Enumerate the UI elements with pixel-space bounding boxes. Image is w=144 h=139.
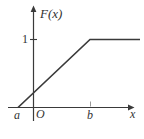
y-axis	[31, 6, 37, 122]
y-axis-label: F(x)	[40, 7, 62, 20]
x-tick-label-b: b	[87, 109, 93, 121]
x-tick-label-a: a	[14, 109, 20, 121]
x-axis-label: x	[130, 108, 135, 120]
cdf-figure: F(x) 1 a O b x	[0, 0, 144, 139]
y-tick-label-one: 1	[22, 33, 28, 45]
origin-label: O	[36, 108, 45, 120]
cdf-curve	[18, 40, 140, 108]
plot-canvas	[0, 0, 144, 139]
x-axis	[8, 105, 135, 111]
y-axis-arrowhead	[31, 6, 37, 13]
